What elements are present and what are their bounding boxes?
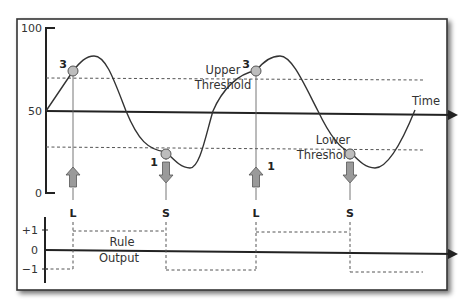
upper-threshold-label-line1: Upper bbox=[206, 63, 241, 77]
upper-threshold-label-line2: Threshold bbox=[194, 78, 252, 92]
signal-label-3: L bbox=[252, 207, 259, 220]
marker-label-1: 3 bbox=[59, 58, 67, 71]
trading-rule-diagram: 100 50 0 Time Upper Threshold Lower Thre… bbox=[0, 0, 464, 304]
rule-output-label-line2: Output bbox=[99, 251, 139, 265]
marker-label-4: 1 bbox=[267, 160, 275, 173]
y-tick-50: 50 bbox=[28, 105, 42, 118]
rule-output-label-line1: Rule bbox=[109, 235, 134, 249]
cross-marker-4 bbox=[345, 149, 355, 159]
cross-marker-2 bbox=[161, 149, 171, 159]
cross-marker-1 bbox=[68, 66, 78, 76]
marker-label-2: 1 bbox=[150, 156, 158, 169]
y-tick-zero: 0 bbox=[31, 244, 38, 257]
marker-label-3: 3 bbox=[242, 58, 250, 71]
time-axis-label: Time bbox=[411, 94, 440, 108]
y-tick-plus1: +1 bbox=[22, 224, 38, 237]
signal-label-2: S bbox=[162, 207, 170, 220]
signal-label-4: S bbox=[346, 207, 354, 220]
diagram-frame bbox=[17, 19, 447, 290]
cross-marker-3 bbox=[251, 66, 261, 76]
y-tick-minus1: −1 bbox=[22, 263, 38, 276]
signal-label-1: L bbox=[69, 207, 76, 220]
y-tick-100: 100 bbox=[21, 22, 42, 35]
lower-threshold-label-line1: Lower bbox=[316, 133, 351, 147]
y-tick-0: 0 bbox=[35, 187, 42, 200]
